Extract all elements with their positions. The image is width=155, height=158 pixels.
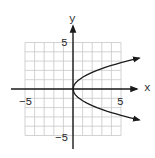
labels: x y −5 5 5 −5 — [19, 13, 151, 144]
y-tick-label-max: 5 — [61, 37, 68, 49]
x-tick-label-min: −5 — [19, 96, 32, 108]
parabola-chart: x y −5 5 5 −5 — [0, 0, 155, 158]
y-axis-label: y — [69, 13, 76, 25]
x-axis-label: x — [144, 82, 151, 94]
y-tick-label-min: −5 — [55, 132, 68, 144]
x-tick-label-max: 5 — [117, 96, 124, 108]
